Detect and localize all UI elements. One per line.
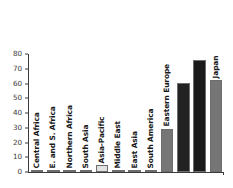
bar-category-label: Northern Africa xyxy=(66,105,73,168)
y-axis-tick-label: 20 xyxy=(13,139,22,146)
bar-group[interactable]: South America xyxy=(145,54,158,172)
bar-category-label: Japan xyxy=(212,55,219,78)
bar-group[interactable]: Japan xyxy=(210,54,223,172)
bar[interactable] xyxy=(145,170,158,172)
bar[interactable] xyxy=(96,165,109,172)
bar-category-label: South Asia xyxy=(82,125,89,169)
y-axis-tick-label: 80 xyxy=(13,50,22,57)
bar-group[interactable]: Central Africa xyxy=(31,54,44,172)
bar[interactable] xyxy=(177,83,190,172)
bar-category-label: Central Africa xyxy=(33,112,40,168)
bar-group[interactable]: Middle East xyxy=(112,54,125,172)
y-axis-tick-label: 30 xyxy=(13,124,22,131)
bar[interactable] xyxy=(80,170,93,172)
y-axis-tick-label: 0 xyxy=(18,168,22,175)
plot-area: Central AfricaE. and S. AfricaNorthern A… xyxy=(29,54,224,172)
bar-group[interactable]: East Asia xyxy=(128,54,141,172)
y-axis-tick-label: 10 xyxy=(13,154,22,161)
bar-category-label: East Asia xyxy=(131,131,138,168)
bar[interactable] xyxy=(193,60,206,172)
x-axis-line xyxy=(28,172,224,173)
bar[interactable] xyxy=(47,170,60,172)
bar[interactable] xyxy=(63,170,76,172)
y-axis-tick-label: 40 xyxy=(13,109,22,116)
bar-group[interactable]: North America xyxy=(177,54,190,172)
bar-group[interactable]: E. and S. Africa xyxy=(47,54,60,172)
bar-chart: 01020304050607080 Central AfricaE. and S… xyxy=(0,0,233,188)
bar-category-label: Asia-Pacific xyxy=(98,117,105,164)
bar-group[interactable]: South Asia xyxy=(80,54,93,172)
bar[interactable] xyxy=(161,129,174,172)
bar-category-label: North America xyxy=(180,22,187,81)
bar[interactable] xyxy=(128,170,141,172)
x-axis-end-tick xyxy=(223,172,224,175)
bar[interactable] xyxy=(31,170,44,172)
y-axis-tick-label: 60 xyxy=(13,80,22,87)
bar-group[interactable]: Asia-Pacific xyxy=(96,54,109,172)
bar-group[interactable]: Western Europe xyxy=(193,54,206,172)
bar-group[interactable]: Eastern Europe xyxy=(161,54,174,172)
bar[interactable] xyxy=(210,80,223,172)
bar-group[interactable]: Northern Africa xyxy=(63,54,76,172)
y-axis: 01020304050607080 xyxy=(0,0,30,188)
bar-category-label: Western Europe xyxy=(196,0,203,58)
bar-category-label: E. and S. Africa xyxy=(50,106,57,168)
bar-category-label: Middle East xyxy=(115,121,122,168)
y-axis-tick-label: 50 xyxy=(13,95,22,102)
bar[interactable] xyxy=(112,170,125,172)
bar-category-label: South America xyxy=(147,108,154,168)
y-axis-tick-label: 70 xyxy=(13,65,22,72)
bar-category-label: Eastern Europe xyxy=(163,64,170,126)
